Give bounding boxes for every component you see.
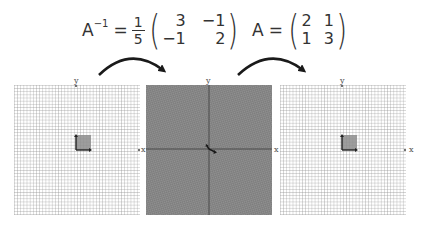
arrow-icon	[238, 59, 303, 75]
original-grid-panel	[14, 85, 140, 215]
unit-square	[76, 135, 91, 150]
y-axis-label: y	[206, 76, 211, 85]
y-axis-label: y	[340, 76, 345, 85]
grid-plot	[280, 85, 406, 215]
x-axis-label: x	[409, 145, 414, 154]
grid-plot	[14, 85, 140, 215]
x-axis-label: x	[274, 145, 279, 154]
y-axis-label: y	[74, 76, 79, 85]
inverse-transformed-grid-panel	[146, 85, 272, 215]
unit-square	[342, 135, 357, 150]
arrow-icon	[99, 59, 163, 75]
x-axis-label: x	[141, 145, 146, 154]
grid-plot	[146, 85, 272, 215]
restored-grid-panel	[280, 85, 406, 215]
